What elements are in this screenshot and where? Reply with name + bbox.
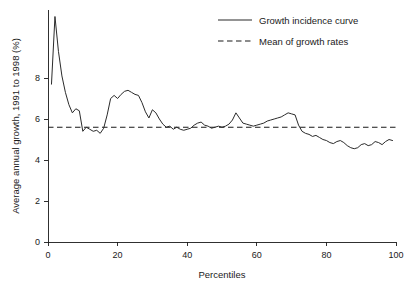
growth-incidence-chart: Average annual growth, 1991 to 1998 (%) … [0, 0, 418, 286]
y-tick-label: 2 [35, 196, 40, 206]
chart-legend: Growth incidence curve Mean of growth ra… [218, 15, 358, 47]
chart-figure: Average annual growth, 1991 to 1998 (%) … [0, 0, 418, 286]
x-axis-ticks: 020406080100 [45, 242, 403, 260]
y-tick-label: 4 [35, 155, 40, 165]
x-tick-label: 20 [113, 250, 123, 260]
legend-item-growth-incidence-curve: Growth incidence curve [259, 15, 358, 26]
x-tick-label: 40 [182, 250, 192, 260]
legend-item-mean-of-growth-rates: Mean of growth rates [259, 36, 348, 47]
y-tick-label: 0 [35, 237, 40, 247]
x-tick-label: 100 [388, 250, 403, 260]
x-tick-label: 60 [252, 250, 262, 260]
x-axis-title: Percentiles [199, 269, 246, 280]
y-tick-label: 6 [35, 114, 40, 124]
y-tick-label: 8 [35, 73, 40, 83]
x-tick-label: 0 [45, 250, 50, 260]
x-tick-label: 80 [321, 250, 331, 260]
y-axis-title: Average annual growth, 1991 to 1998 (%) [10, 38, 21, 214]
y-axis-ticks: 02468 [35, 73, 48, 247]
